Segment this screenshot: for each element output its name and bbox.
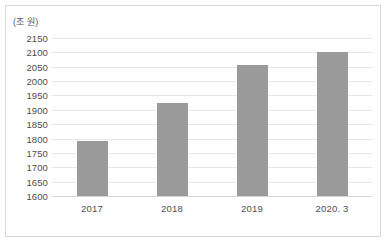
y-axis-tick-labels: 2150210020502000195019001850180017501700… xyxy=(8,38,48,196)
y-axis-tick-label: 2100 xyxy=(12,47,48,58)
x-axis-tick-label: 2019 xyxy=(241,203,263,214)
x-axis-tick-labels: 2017201820192020. 3 xyxy=(52,200,372,222)
bar[interactable] xyxy=(317,52,348,196)
plot-area xyxy=(52,38,372,196)
y-axis-tick-label: 1800 xyxy=(12,133,48,144)
y-axis-unit-label: (조 원) xyxy=(13,15,39,28)
y-axis-tick-label: 2000 xyxy=(12,76,48,87)
y-axis-tick-label: 1700 xyxy=(12,162,48,173)
x-axis-tick-label: 2018 xyxy=(161,203,183,214)
y-axis-tick-label: 2050 xyxy=(12,61,48,72)
gridline xyxy=(52,196,372,197)
y-axis-tick-label: 2150 xyxy=(12,33,48,44)
y-axis-tick-label: 1850 xyxy=(12,119,48,130)
y-axis-tick-label: 1650 xyxy=(12,176,48,187)
bar[interactable] xyxy=(237,65,268,196)
bar-chart: (조 원) 2150210020502000195019001850180017… xyxy=(0,0,388,245)
y-axis-tick-label: 1950 xyxy=(12,90,48,101)
y-axis-tick-label: 1600 xyxy=(12,191,48,202)
x-axis-tick-label: 2017 xyxy=(81,203,103,214)
bar[interactable] xyxy=(157,103,188,196)
gridline xyxy=(52,38,372,39)
x-axis-tick-label: 2020. 3 xyxy=(315,203,348,214)
bar[interactable] xyxy=(77,141,108,196)
y-axis-tick-label: 1900 xyxy=(12,104,48,115)
y-axis-tick-label: 1750 xyxy=(12,147,48,158)
